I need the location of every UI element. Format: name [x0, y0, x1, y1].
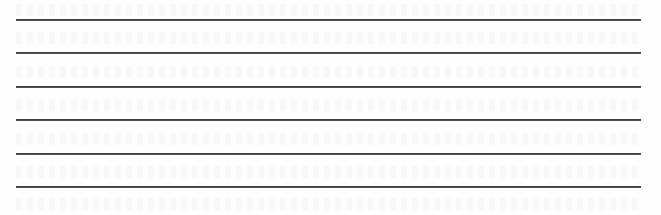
ruled-line-1[interactable]: [16, 19, 641, 21]
show-through-text: [16, 198, 641, 210]
ruled-line-5[interactable]: [16, 153, 641, 155]
show-through-text: [16, 166, 641, 178]
ruled-line-2[interactable]: [16, 52, 641, 54]
show-through-text: [16, 4, 641, 16]
show-through-text: [16, 99, 641, 111]
show-through-text: [16, 133, 641, 145]
ruled-line-6[interactable]: [16, 186, 641, 188]
show-through-text: [16, 66, 641, 78]
ruled-line-4[interactable]: [16, 119, 641, 121]
ruled-writing-area: [0, 0, 661, 215]
show-through-text: [16, 32, 641, 44]
ruled-line-3[interactable]: [16, 86, 641, 88]
